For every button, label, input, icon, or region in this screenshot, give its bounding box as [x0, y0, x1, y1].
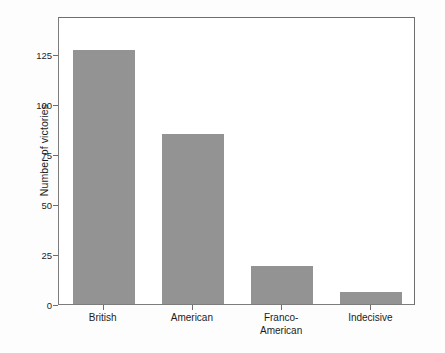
y-tick-label: 100	[0, 100, 52, 111]
x-tick-mark	[370, 305, 371, 310]
bar	[73, 50, 135, 304]
x-tick-label-line: Franco-	[264, 312, 298, 323]
x-tick-label-line: American	[171, 312, 213, 323]
x-tick-mark	[281, 305, 282, 310]
x-tick-label-line: Indecisive	[348, 312, 392, 323]
y-tick-label: 125	[0, 50, 52, 61]
x-tick-label-line: British	[89, 312, 117, 323]
y-tick-label: 0	[0, 300, 52, 311]
y-tick-label: 25	[0, 250, 52, 261]
x-tick-label: Indecisive	[315, 312, 425, 325]
bar	[162, 134, 224, 304]
x-tick-mark	[192, 305, 193, 310]
y-tick-mark	[53, 305, 58, 306]
x-tick-mark	[103, 305, 104, 310]
bar	[251, 266, 313, 304]
x-tick-label-line: American	[226, 325, 336, 338]
y-tick-label: 75	[0, 150, 52, 161]
bar	[340, 292, 402, 304]
bar-chart-figure: Number of victories 0255075100125 Britis…	[0, 0, 445, 353]
plot-frame	[58, 17, 415, 305]
plot-area	[59, 18, 414, 304]
y-tick-label: 50	[0, 200, 52, 211]
